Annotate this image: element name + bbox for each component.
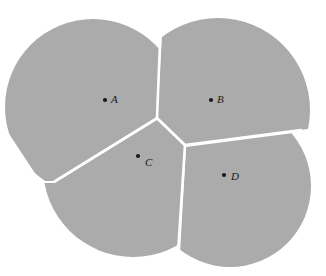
site-d-dot [222,173,226,177]
diagram-canvas: A B C D [0,0,326,276]
site-a-dot [103,98,107,102]
site-b-label: B [217,93,224,105]
site-d-label: D [230,170,239,182]
voronoi-figure: A B C D [0,0,326,276]
site-b-dot [209,98,213,102]
site-c-dot [136,154,140,158]
site-c-label: C [145,156,153,168]
site-a-label: A [110,93,118,105]
